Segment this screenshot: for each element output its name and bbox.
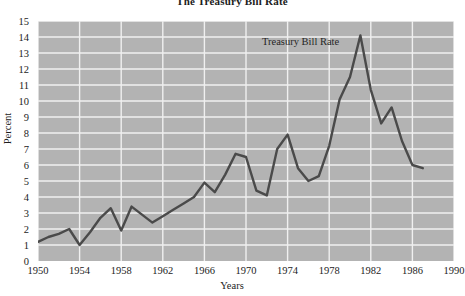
y-axis-tick-label: 5 xyxy=(24,176,29,187)
y-axis-tick-label: 1 xyxy=(24,240,29,251)
y-axis-tick-label: 14 xyxy=(19,32,30,43)
x-axis-label: Years xyxy=(0,280,464,292)
y-axis-tick-label: 8 xyxy=(24,128,29,139)
series-annotation-label: Treasury Bill Rate xyxy=(262,36,339,48)
y-axis-tick-label: 10 xyxy=(19,96,30,107)
y-axis-tick-label: 2 xyxy=(24,224,29,235)
x-axis-tick-label: 1982 xyxy=(360,264,381,277)
y-axis-tick-label: 7 xyxy=(24,144,29,155)
x-axis-tick-label: 1986 xyxy=(402,264,423,277)
x-axis-tick-label: 1954 xyxy=(69,264,90,277)
x-axis-tick-label: 1966 xyxy=(194,264,215,277)
y-axis-tick-label: 15 xyxy=(19,16,30,27)
y-axis-tick-label: 3 xyxy=(24,208,29,219)
x-axis-tick-label: 1978 xyxy=(319,264,340,277)
chart-plot-svg xyxy=(38,21,454,261)
chart-title: The Treasury Bill Rate xyxy=(0,0,464,7)
x-axis-tick-label: 1970 xyxy=(236,264,257,277)
y-axis-tick-labels: 0123456789101112131415 xyxy=(0,21,33,261)
x-axis-tick-label: 1990 xyxy=(444,264,465,277)
plot-area xyxy=(38,21,454,261)
x-axis-tick-label: 1974 xyxy=(277,264,298,277)
y-axis-tick-label: 11 xyxy=(19,80,29,91)
x-axis-tick-label: 1950 xyxy=(28,264,49,277)
y-axis-tick-label: 13 xyxy=(19,48,30,59)
x-axis-tick-label: 1958 xyxy=(111,264,132,277)
grid-lines xyxy=(38,21,454,261)
x-axis-tick-labels: 1950195419581962196619701974197819821986… xyxy=(0,264,464,278)
y-axis-tick-label: 12 xyxy=(19,64,30,75)
y-axis-tick-label: 9 xyxy=(24,112,29,123)
x-axis-tick-label: 1962 xyxy=(152,264,173,277)
y-axis-tick-label: 4 xyxy=(24,192,29,203)
y-axis-tick-label: 6 xyxy=(24,160,29,171)
